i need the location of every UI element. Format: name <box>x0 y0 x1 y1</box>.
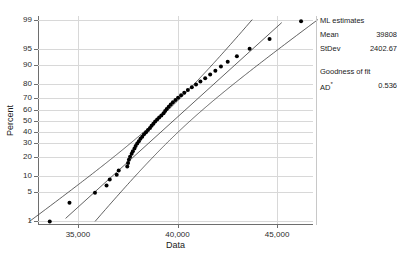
stdev-label: StDev <box>320 44 340 53</box>
data-point <box>268 37 272 41</box>
data-point <box>194 82 198 86</box>
data-point <box>226 60 230 64</box>
y-tick-label: 10 <box>23 172 32 180</box>
data-point <box>108 177 112 181</box>
data-point <box>126 161 130 165</box>
mean-label: Mean <box>320 30 339 39</box>
y-axis-title-wrap: Percent <box>3 16 15 225</box>
data-point <box>190 85 194 89</box>
data-point <box>299 19 303 23</box>
y-tick-label: 90 <box>23 61 32 69</box>
confidence-band-upper <box>95 20 318 222</box>
mean-row: Mean 39808 <box>320 30 397 39</box>
legend-spacer <box>320 58 397 67</box>
data-point <box>213 69 217 73</box>
data-point <box>198 79 202 83</box>
statistics-panel: ML estimates Mean 39808 StDev 2402.67 Go… <box>320 16 397 97</box>
data-point <box>93 191 97 195</box>
stdev-row: StDev 2402.67 <box>320 44 397 53</box>
confidence-band-lower <box>29 20 252 222</box>
x-tick-label: 35,000 <box>66 231 90 239</box>
data-point <box>117 168 121 172</box>
x-tick-label: 40,000 <box>165 231 189 239</box>
ml-fit-line <box>66 23 282 219</box>
data-point <box>105 184 109 188</box>
ad-superscript: * <box>330 81 332 87</box>
y-tick-label: 99 <box>23 16 32 24</box>
probability-plot-figure: Percent 151020304050607080909599 35,0004… <box>0 0 397 265</box>
ml-estimates-heading: ML estimates <box>320 16 397 25</box>
legend-divider <box>316 16 317 225</box>
ad-label: AD* <box>320 81 333 92</box>
y-tick-label: 70 <box>23 94 32 102</box>
plot-canvas <box>38 16 313 225</box>
data-point <box>125 165 129 169</box>
mean-value: 39808 <box>376 30 397 39</box>
data-point <box>219 65 223 69</box>
y-tick-label: 30 <box>23 139 32 147</box>
y-tick-label: 80 <box>23 80 32 88</box>
y-axis-title: Percent <box>5 16 17 225</box>
y-tick-label: 60 <box>23 106 32 114</box>
stdev-value: 2402.67 <box>370 44 397 53</box>
data-point <box>115 173 119 177</box>
data-point <box>203 76 207 80</box>
goodness-of-fit-heading: Goodness of fit <box>320 67 397 76</box>
data-point <box>48 219 52 223</box>
ad-value: 0.536 <box>378 81 397 92</box>
data-points <box>48 19 303 223</box>
data-point <box>182 91 186 95</box>
data-point <box>208 73 212 77</box>
ad-row: AD* 0.536 <box>320 81 397 92</box>
data-point <box>179 93 183 97</box>
y-tick-label: 95 <box>23 45 32 53</box>
plot-area: 151020304050607080909599 35,00040,00045,… <box>38 16 313 225</box>
y-tick-label: 5 <box>28 188 32 196</box>
x-axis-title: Data <box>38 240 313 250</box>
y-tick-label: 20 <box>23 153 32 161</box>
data-point <box>186 88 190 92</box>
data-point <box>67 201 71 205</box>
y-tick-label: 40 <box>23 128 32 136</box>
x-tick-label: 45,000 <box>265 231 289 239</box>
data-point <box>235 54 239 58</box>
y-tick-label: 50 <box>23 117 32 125</box>
data-point <box>248 47 252 51</box>
